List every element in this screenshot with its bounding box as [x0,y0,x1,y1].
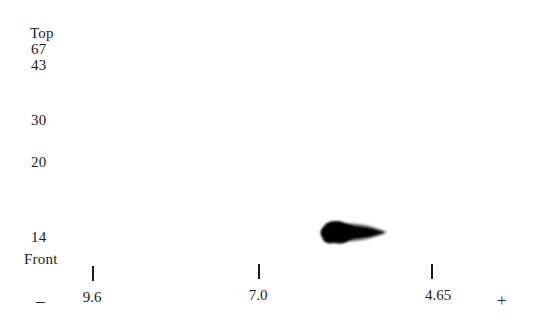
axis-label-4-65: 4.65 [406,288,470,303]
axis-tick-4-65 [431,264,433,279]
mw-marker-front: Front [24,252,58,267]
gel-autoradiogram-figure: Top 67 43 30 20 14 Front [0,0,546,326]
mw-marker-30: 30 [31,113,46,128]
axis-label-9-6: 9.6 [62,290,122,305]
mw-marker-43: 43 [31,58,46,73]
protein-spot [321,221,387,244]
axis-label-7-0: 7.0 [228,288,288,303]
axis-tick-9-6 [92,266,94,281]
spot-layer [0,0,546,326]
negative-pole-symbol: – [36,292,45,309]
mw-marker-top: Top [30,26,54,41]
axis-tick-7-0 [258,264,260,279]
mw-marker-14: 14 [31,230,46,245]
positive-pole-symbol: + [497,292,507,309]
mw-marker-20: 20 [31,155,46,170]
mw-marker-67: 67 [31,42,46,57]
